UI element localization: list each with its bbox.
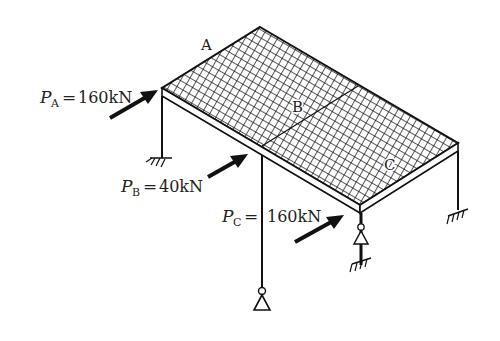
svg-text:160kN: 160kN bbox=[78, 88, 132, 107]
pinned-support-middle bbox=[254, 288, 270, 311]
svg-text:B: B bbox=[132, 186, 140, 199]
load-label-a: P A = 160kN bbox=[39, 87, 132, 110]
svg-text:=: = bbox=[244, 206, 258, 226]
point-label-c: C bbox=[384, 156, 395, 174]
pinned-fixed-support-front bbox=[350, 224, 371, 272]
frame-diagram: A B C P A = 160kN P B = 40kN P C = 160kN bbox=[0, 0, 500, 341]
svg-text:A: A bbox=[50, 97, 60, 110]
load-arrow-b bbox=[208, 154, 248, 177]
svg-text:40kN: 40kN bbox=[159, 177, 203, 196]
svg-text:160kN: 160kN bbox=[267, 207, 321, 226]
svg-text:C: C bbox=[233, 216, 241, 229]
svg-text:=: = bbox=[62, 87, 76, 107]
point-label-a: A bbox=[200, 36, 212, 54]
fixed-support-left bbox=[146, 158, 172, 167]
fixed-support-right bbox=[447, 209, 468, 224]
point-label-b: B bbox=[292, 98, 303, 116]
load-label-b: P B = 40kN bbox=[120, 176, 203, 199]
load-label-c: P C = 160kN bbox=[221, 206, 321, 229]
svg-text:=: = bbox=[143, 176, 157, 196]
